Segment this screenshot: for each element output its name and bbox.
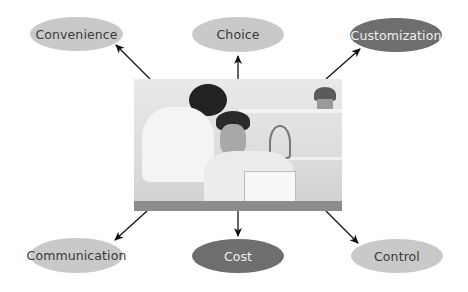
node-cost: Cost bbox=[192, 239, 284, 273]
arrow-to-convenience bbox=[116, 45, 150, 79]
node-convenience: Convenience bbox=[30, 17, 123, 51]
node-label: Convenience bbox=[35, 27, 117, 42]
node-label: Communication bbox=[27, 248, 127, 263]
node-label: Cost bbox=[224, 249, 252, 264]
arrow-to-customization bbox=[326, 49, 360, 79]
table bbox=[134, 201, 342, 211]
node-communication: Communication bbox=[30, 238, 123, 273]
node-label: Control bbox=[374, 249, 420, 264]
arrow-to-control bbox=[326, 211, 358, 243]
shelf bbox=[239, 109, 342, 113]
node-label: Customization bbox=[351, 28, 442, 43]
node-control: Control bbox=[351, 239, 443, 273]
node-label: Choice bbox=[217, 27, 260, 42]
node-customization: Customization bbox=[350, 18, 442, 52]
center-photo bbox=[134, 79, 342, 211]
arrow-to-communication bbox=[115, 211, 147, 240]
pot bbox=[317, 99, 333, 109]
node-choice: Choice bbox=[192, 17, 284, 52]
